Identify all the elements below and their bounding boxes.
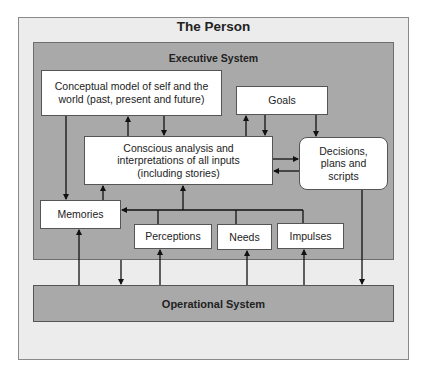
- connector-arrows: [0, 0, 425, 378]
